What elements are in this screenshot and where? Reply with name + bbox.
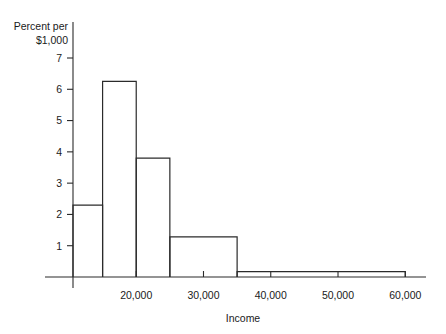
y-tick-label-4: 4 — [56, 146, 62, 158]
histogram-bars — [73, 81, 405, 277]
x-tick-label-40000: 40,000 — [255, 289, 287, 301]
y-tick-label-5: 5 — [56, 114, 62, 126]
y-axis-label-group: Percent per $1,000 — [14, 20, 69, 46]
histogram-bar-4 — [170, 237, 237, 277]
x-axis-title: Income — [226, 312, 261, 324]
y-tick-label-2: 2 — [56, 208, 62, 220]
y-axis-label-line1: Percent per — [14, 20, 69, 32]
histogram-bar-1 — [73, 205, 103, 277]
y-tick-label-6: 6 — [56, 83, 62, 95]
histogram-canvas: Percent per $1,000 1234567 20,00030,0004… — [0, 0, 446, 334]
histogram-bar-2 — [103, 81, 137, 277]
y-axis-ticks: 1234567 — [56, 52, 73, 252]
x-tick-label-20000: 20,000 — [120, 289, 152, 301]
y-tick-label-1: 1 — [56, 240, 62, 252]
histogram-bar-5 — [237, 272, 405, 277]
y-tick-label-7: 7 — [56, 52, 62, 64]
y-tick-label-3: 3 — [56, 177, 62, 189]
y-axis-label-line2: $1,000 — [36, 34, 68, 46]
histogram-bar-3 — [136, 158, 170, 277]
x-tick-label-30000: 30,000 — [187, 289, 219, 301]
x-tick-label-60000: 60,000 — [389, 289, 421, 301]
histogram-figure: Percent per $1,000 1234567 20,00030,0004… — [0, 0, 446, 334]
x-axis-ticks: 20,00030,00040,00050,00060,000 — [120, 271, 421, 301]
x-tick-label-50000: 50,000 — [322, 289, 354, 301]
